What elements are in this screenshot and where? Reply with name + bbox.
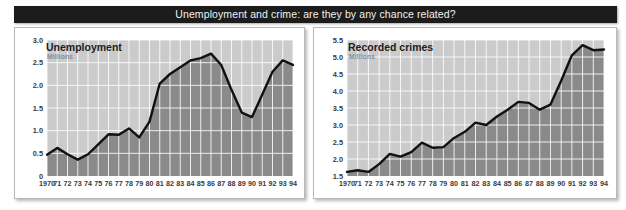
svg-text:79: 79: [439, 179, 447, 188]
figure-root: Unemployment and crime: are they by any …: [0, 0, 626, 210]
svg-text:3.5: 3.5: [333, 104, 343, 113]
svg-text:94: 94: [289, 179, 297, 188]
svg-text:90: 90: [248, 179, 256, 188]
svg-text:83: 83: [176, 179, 184, 188]
svg-text:77: 77: [418, 179, 426, 188]
svg-text:5.5: 5.5: [333, 36, 343, 45]
svg-text:72: 72: [364, 179, 372, 188]
svg-text:75: 75: [94, 179, 102, 188]
y-axis-ticks: 5.55.04.54.03.53.02.52.01.5: [333, 36, 343, 181]
svg-text:71: 71: [53, 179, 61, 188]
x-axis-ticks: 1970717273747576777879808182838485868788…: [39, 179, 297, 188]
svg-text:92: 92: [579, 179, 587, 188]
figure-title: Unemployment and crime: are they by any …: [175, 9, 455, 20]
svg-text:2.5: 2.5: [33, 58, 43, 67]
svg-text:82: 82: [166, 179, 174, 188]
unemployment-chart-title: Unemployment: [46, 42, 122, 53]
svg-text:74: 74: [386, 179, 394, 188]
svg-text:94: 94: [600, 179, 608, 188]
svg-text:2.0: 2.0: [33, 81, 43, 90]
svg-text:80: 80: [146, 179, 154, 188]
svg-text:84: 84: [493, 179, 501, 188]
svg-text:82: 82: [472, 179, 480, 188]
svg-text:77: 77: [115, 179, 123, 188]
svg-text:5.0: 5.0: [333, 53, 343, 62]
recorded-crimes-chart-title: Recorded crimes: [348, 42, 433, 53]
svg-text:1970: 1970: [339, 179, 355, 188]
svg-text:0.5: 0.5: [33, 149, 43, 158]
svg-text:4.0: 4.0: [333, 87, 343, 96]
svg-text:81: 81: [461, 179, 469, 188]
figure-banner: Unemployment and crime: are they by any …: [14, 6, 617, 23]
svg-text:4.5: 4.5: [333, 70, 343, 79]
svg-text:75: 75: [397, 179, 405, 188]
svg-text:3.0: 3.0: [33, 36, 43, 45]
svg-text:3.0: 3.0: [333, 121, 343, 130]
svg-text:86: 86: [207, 179, 215, 188]
svg-text:93: 93: [589, 179, 597, 188]
svg-text:76: 76: [105, 179, 113, 188]
svg-text:89: 89: [238, 179, 246, 188]
svg-text:93: 93: [279, 179, 287, 188]
svg-text:76: 76: [407, 179, 415, 188]
svg-text:86: 86: [514, 179, 522, 188]
svg-text:91: 91: [258, 179, 266, 188]
svg-text:2.0: 2.0: [333, 155, 343, 164]
svg-text:72: 72: [64, 179, 72, 188]
svg-text:87: 87: [525, 179, 533, 188]
svg-text:87: 87: [217, 179, 225, 188]
svg-text:71: 71: [354, 179, 362, 188]
svg-text:73: 73: [74, 179, 82, 188]
svg-text:74: 74: [84, 179, 92, 188]
svg-text:81: 81: [156, 179, 164, 188]
unemployment-chart-subtitle: Millions: [47, 54, 73, 61]
svg-text:79: 79: [135, 179, 143, 188]
svg-text:85: 85: [197, 179, 205, 188]
svg-text:1.0: 1.0: [33, 126, 43, 135]
svg-text:78: 78: [429, 179, 437, 188]
svg-text:85: 85: [504, 179, 512, 188]
y-axis-ticks: 3.02.52.01.51.00.50: [33, 36, 43, 181]
svg-text:89: 89: [546, 179, 554, 188]
svg-text:88: 88: [536, 179, 544, 188]
svg-text:73: 73: [375, 179, 383, 188]
svg-text:2.5: 2.5: [333, 138, 343, 147]
svg-text:91: 91: [568, 179, 576, 188]
svg-text:88: 88: [228, 179, 236, 188]
x-axis-ticks: 1970717273747576777879808182838485868788…: [339, 179, 608, 188]
svg-text:78: 78: [125, 179, 133, 188]
svg-text:84: 84: [187, 179, 195, 188]
svg-text:90: 90: [557, 179, 565, 188]
svg-text:80: 80: [450, 179, 458, 188]
recorded-crimes-chart-subtitle: Millions: [349, 54, 375, 61]
svg-text:1.5: 1.5: [33, 104, 43, 113]
svg-text:83: 83: [482, 179, 490, 188]
svg-text:92: 92: [269, 179, 277, 188]
